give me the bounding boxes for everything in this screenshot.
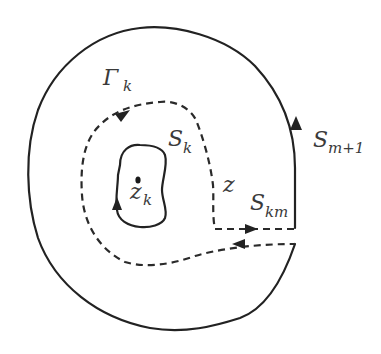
label-z: z [222, 172, 235, 197]
cut-upper-arrow-icon [245, 224, 258, 234]
label-gamma-sub: k [123, 77, 132, 95]
label-s-k: S [168, 126, 183, 151]
label-s-km-sub: km [265, 203, 288, 221]
label-s-k-sub: k [183, 139, 192, 157]
label-z-k-sub: k [143, 191, 152, 209]
label-s-m1-sub: m+1 [328, 139, 364, 157]
label-s-km: S [250, 190, 265, 215]
outer-contour-arrow-icon [290, 116, 302, 130]
dashed-contour [82, 102, 294, 265]
label-z-k: z [129, 179, 142, 204]
label-gamma: Γ [102, 65, 119, 90]
label-s-m1: S [313, 127, 328, 152]
contour-diagram: Γ k S k z k z S km S m+1 [0, 0, 381, 354]
outer-contour [28, 27, 295, 330]
inner-contour-arrow-icon [112, 197, 122, 210]
